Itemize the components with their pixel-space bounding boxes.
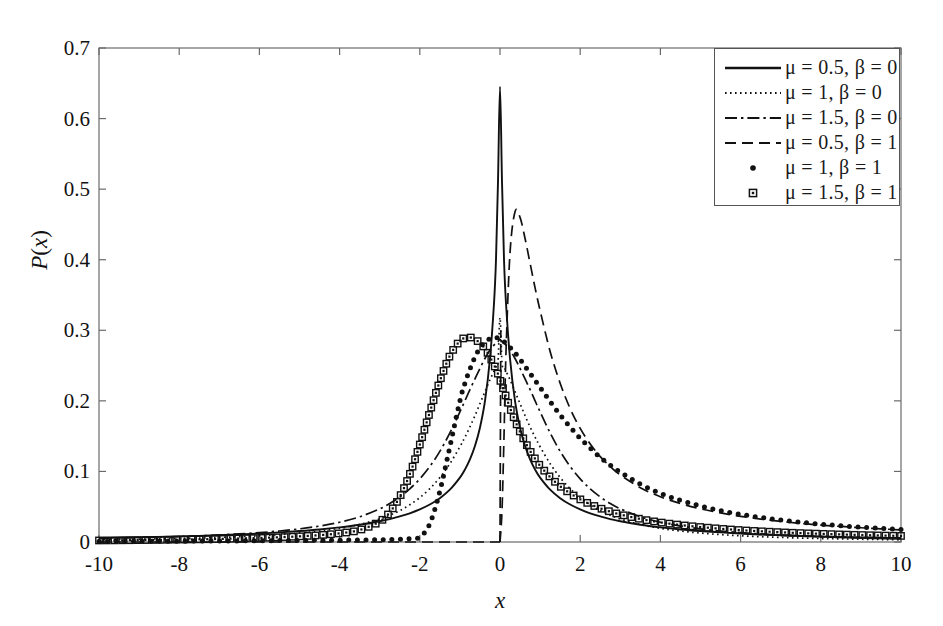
legend-item-label: μ = 1, β = 1 — [785, 156, 882, 179]
legend-item[interactable]: μ = 1, β = 0 — [723, 80, 889, 105]
x-tick-label: -6 — [251, 552, 269, 577]
x-tick-label: 8 — [816, 552, 827, 577]
x-tick-label: -4 — [331, 552, 349, 577]
legend-item-label: μ = 1, β = 0 — [785, 81, 882, 104]
x-axis-label: x — [495, 588, 505, 614]
legend-item[interactable]: μ = 1.5, β = 0 — [723, 105, 889, 130]
y-axis-label: P(x) — [27, 230, 53, 270]
x-tick-label: 2 — [575, 552, 586, 577]
legend-square-marker-icon — [723, 184, 783, 202]
legend-item-label: μ = 1.5, β = 1 — [785, 181, 898, 204]
y-tick-label: 0.3 — [30, 318, 90, 343]
x-tick-label: -8 — [170, 552, 188, 577]
x-tick-label: 6 — [735, 552, 746, 577]
y-tick-label: 0.7 — [30, 36, 90, 61]
legend-item-label: μ = 1.5, β = 0 — [785, 106, 898, 129]
legend-item[interactable]: μ = 0.5, β = 1 — [723, 130, 889, 155]
legend-dashdot-line-icon — [723, 109, 783, 127]
series-3 — [99, 209, 901, 542]
legend-item[interactable]: μ = 1, β = 1 — [723, 155, 889, 180]
y-tick-label: 0.5 — [30, 177, 90, 202]
y-tick-label: 0.1 — [30, 459, 90, 484]
x-tick-label: 10 — [891, 552, 912, 577]
y-tick-label: 0.6 — [30, 106, 90, 131]
legend-item-label: μ = 0.5, β = 1 — [785, 131, 898, 154]
x-tick-label: 4 — [655, 552, 666, 577]
legend-item[interactable]: μ = 0.5, β = 0 — [723, 55, 889, 80]
x-tick-label: -10 — [85, 552, 113, 577]
legend-dotted-line-icon — [723, 84, 783, 102]
legend: μ = 0.5, β = 0μ = 1, β = 0μ = 1.5, β = 0… — [714, 48, 900, 206]
legend-solid-line-icon — [723, 59, 783, 77]
legend-item-label: μ = 0.5, β = 0 — [785, 56, 898, 79]
x-tick-label: -2 — [411, 552, 429, 577]
levy-stable-pdf-figure: 00.10.20.30.40.50.60.7 -10-8-6-4-2024681… — [0, 0, 943, 626]
y-tick-label: 0 — [30, 530, 90, 555]
legend-dot-marker-icon — [723, 159, 783, 177]
legend-dashed-line-icon — [723, 134, 783, 152]
y-tick-label: 0.2 — [30, 388, 90, 413]
x-tick-label: 0 — [495, 552, 506, 577]
legend-item[interactable]: μ = 1.5, β = 1 — [723, 180, 889, 205]
